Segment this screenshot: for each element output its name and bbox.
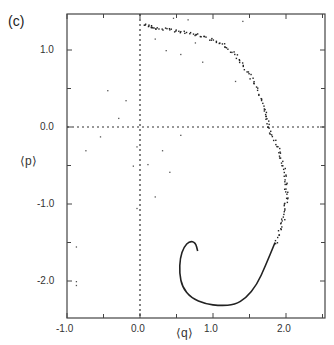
- data-point: [260, 98, 261, 99]
- data-point: [100, 136, 101, 137]
- data-point: [151, 27, 152, 28]
- data-point: [147, 164, 148, 165]
- data-point: [174, 31, 175, 32]
- data-point: [253, 81, 254, 82]
- data-point: [125, 100, 126, 101]
- data-point: [264, 109, 265, 110]
- data-point: [248, 73, 249, 74]
- data-point: [265, 114, 266, 115]
- data-point: [281, 222, 282, 223]
- data-point: [224, 47, 225, 48]
- data-point: [184, 33, 185, 34]
- data-point: [230, 52, 231, 53]
- data-point: [169, 28, 170, 29]
- data-point: [169, 29, 170, 30]
- data-point: [284, 181, 285, 182]
- data-point: [187, 19, 188, 20]
- data-point: [249, 78, 250, 79]
- data-point: [239, 62, 240, 63]
- data-point: [133, 166, 134, 167]
- data-point: [85, 150, 86, 151]
- data-point: [278, 230, 279, 231]
- data-point: [76, 281, 77, 282]
- data-point: [282, 161, 283, 162]
- data-point: [180, 135, 181, 136]
- data-point: [275, 140, 276, 141]
- data-point: [277, 242, 278, 243]
- data-point: [284, 209, 285, 210]
- ytick-label: -2.0: [37, 275, 54, 286]
- data-point: [281, 162, 282, 163]
- data-point: [281, 218, 282, 219]
- data-point: [162, 150, 163, 151]
- data-point: [166, 28, 167, 29]
- data-point: [235, 81, 236, 82]
- data-point: [153, 27, 154, 28]
- data-point: [283, 169, 284, 170]
- data-point: [284, 203, 285, 204]
- data-point: [272, 136, 273, 137]
- data-point: [197, 33, 198, 34]
- data-point: [136, 208, 137, 209]
- data-point: [200, 36, 201, 37]
- data-point: [268, 120, 269, 121]
- ytick-label: -1.0: [37, 198, 54, 209]
- data-point: [242, 21, 243, 22]
- data-point: [233, 51, 234, 52]
- plot-frame: [67, 14, 325, 318]
- data-point: [266, 116, 267, 117]
- data-point: [286, 198, 287, 199]
- data-point: [216, 42, 217, 43]
- data-point: [270, 131, 271, 132]
- data-point: [219, 43, 220, 44]
- data-point: [269, 132, 270, 133]
- data-point: [285, 168, 286, 169]
- data-point: [286, 183, 287, 184]
- data-point: [76, 285, 77, 286]
- data-point: [209, 39, 210, 40]
- data-point: [287, 192, 288, 193]
- data-point: [285, 174, 286, 175]
- data-point: [268, 127, 269, 128]
- data-point: [213, 39, 214, 40]
- data-point: [281, 165, 282, 166]
- data-point: [287, 202, 288, 203]
- data-point: [275, 240, 276, 241]
- xtick-label: -1.0: [56, 323, 73, 334]
- data-point: [196, 34, 197, 35]
- data-point: [263, 105, 264, 106]
- data-point: [256, 86, 257, 87]
- x-axis-label: ⟨q⟩: [176, 326, 193, 340]
- data-point: [202, 62, 203, 63]
- data-point: [284, 172, 285, 173]
- data-point: [211, 38, 212, 39]
- data-series: [76, 18, 289, 306]
- ytick-label: 1.0: [40, 44, 54, 55]
- xtick-label: 0.0: [131, 323, 145, 334]
- xtick-label: 2.0: [277, 323, 291, 334]
- data-point: [194, 35, 195, 36]
- data-point: [284, 219, 285, 220]
- data-point: [284, 189, 285, 190]
- data-point: [253, 82, 254, 83]
- data-point: [107, 90, 108, 91]
- data-point: [193, 33, 194, 34]
- data-point: [169, 172, 170, 173]
- data-point: [279, 157, 280, 158]
- data-point: [237, 54, 238, 55]
- data-point: [284, 208, 285, 209]
- data-point: [285, 191, 286, 192]
- data-point: [273, 140, 274, 141]
- data-point: [222, 43, 223, 44]
- data-point: [284, 184, 285, 185]
- data-point: [204, 36, 205, 37]
- data-point: [281, 226, 282, 227]
- data-point: [284, 205, 285, 206]
- data-point: [279, 151, 280, 152]
- data-point: [283, 216, 284, 217]
- data-point: [171, 28, 172, 29]
- data-point: [279, 234, 280, 235]
- ytick-label: 0.0: [40, 121, 54, 132]
- data-point: [155, 38, 156, 39]
- data-point: [286, 194, 287, 195]
